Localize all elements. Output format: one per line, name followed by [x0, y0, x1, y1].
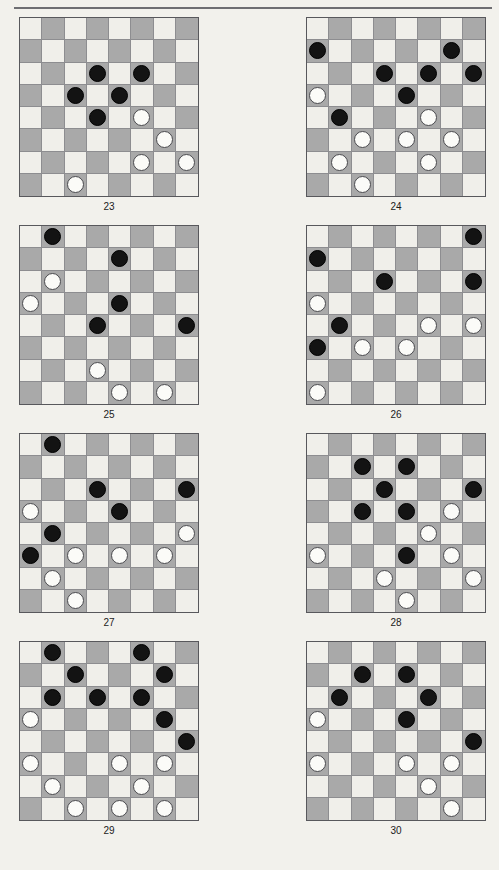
square-r6-c7[interactable]	[176, 776, 198, 798]
square-r2-c5[interactable]	[418, 479, 440, 501]
square-r6-c2[interactable]	[65, 568, 87, 590]
square-r7-c1[interactable]	[42, 798, 64, 820]
square-r3-c3[interactable]	[374, 501, 396, 523]
square-r4-c7[interactable]	[176, 107, 198, 129]
square-r7-c7[interactable]	[463, 382, 485, 404]
square-r2-c4[interactable]	[396, 687, 418, 709]
square-r3-c0[interactable]	[20, 501, 42, 523]
square-r0-c2[interactable]	[65, 18, 87, 40]
square-r1-c1[interactable]	[329, 40, 351, 62]
square-r2-c4[interactable]	[396, 479, 418, 501]
square-r3-c7[interactable]	[463, 293, 485, 315]
square-r5-c0[interactable]	[20, 545, 42, 567]
square-r5-c4[interactable]	[109, 337, 131, 359]
square-r3-c2[interactable]	[352, 709, 374, 731]
square-r3-c2[interactable]	[352, 293, 374, 315]
square-r0-c5[interactable]	[418, 642, 440, 664]
white-checker-piece[interactable]	[22, 711, 39, 728]
square-r6-c6[interactable]	[441, 568, 463, 590]
square-r2-c6[interactable]	[154, 479, 176, 501]
square-r4-c5[interactable]	[418, 523, 440, 545]
square-r4-c5[interactable]	[131, 107, 153, 129]
square-r3-c1[interactable]	[329, 85, 351, 107]
square-r6-c3[interactable]	[87, 776, 109, 798]
square-r4-c1[interactable]	[329, 731, 351, 753]
black-checker-piece[interactable]	[178, 481, 195, 498]
square-r5-c0[interactable]	[307, 753, 329, 775]
white-checker-piece[interactable]	[420, 525, 437, 542]
black-checker-piece[interactable]	[465, 481, 482, 498]
square-r0-c6[interactable]	[154, 18, 176, 40]
square-r6-c4[interactable]	[396, 152, 418, 174]
square-r4-c6[interactable]	[441, 523, 463, 545]
white-checker-piece[interactable]	[22, 755, 39, 772]
square-r7-c3[interactable]	[374, 798, 396, 820]
square-r7-c7[interactable]	[176, 590, 198, 612]
square-r0-c0[interactable]	[20, 434, 42, 456]
white-checker-piece[interactable]	[178, 154, 195, 171]
black-checker-piece[interactable]	[398, 458, 415, 475]
square-r6-c5[interactable]	[131, 776, 153, 798]
square-r5-c0[interactable]	[307, 129, 329, 151]
square-r6-c3[interactable]	[87, 152, 109, 174]
white-checker-piece[interactable]	[309, 87, 326, 104]
square-r2-c6[interactable]	[154, 687, 176, 709]
square-r6-c0[interactable]	[20, 152, 42, 174]
black-checker-piece[interactable]	[44, 436, 61, 453]
white-checker-piece[interactable]	[67, 547, 84, 564]
square-r6-c5[interactable]	[131, 360, 153, 382]
square-r3-c2[interactable]	[352, 85, 374, 107]
square-r6-c3[interactable]	[374, 568, 396, 590]
black-checker-piece[interactable]	[331, 317, 348, 334]
white-checker-piece[interactable]	[331, 154, 348, 171]
square-r2-c5[interactable]	[131, 63, 153, 85]
square-r3-c0[interactable]	[20, 85, 42, 107]
square-r6-c2[interactable]	[65, 152, 87, 174]
square-r0-c3[interactable]	[87, 642, 109, 664]
square-r2-c7[interactable]	[176, 687, 198, 709]
square-r4-c1[interactable]	[42, 315, 64, 337]
square-r0-c6[interactable]	[441, 434, 463, 456]
white-checker-piece[interactable]	[156, 131, 173, 148]
square-r1-c1[interactable]	[42, 248, 64, 270]
square-r6-c0[interactable]	[307, 360, 329, 382]
black-checker-piece[interactable]	[465, 273, 482, 290]
square-r7-c2[interactable]	[65, 798, 87, 820]
square-r5-c6[interactable]	[441, 129, 463, 151]
square-r0-c1[interactable]	[42, 18, 64, 40]
square-r2-c6[interactable]	[154, 271, 176, 293]
square-r7-c3[interactable]	[374, 174, 396, 196]
square-r5-c2[interactable]	[352, 337, 374, 359]
square-r7-c4[interactable]	[396, 174, 418, 196]
square-r1-c5[interactable]	[131, 248, 153, 270]
black-checker-piece[interactable]	[465, 733, 482, 750]
square-r7-c6[interactable]	[441, 382, 463, 404]
square-r2-c7[interactable]	[463, 63, 485, 85]
square-r0-c3[interactable]	[374, 642, 396, 664]
white-checker-piece[interactable]	[398, 339, 415, 356]
square-r5-c4[interactable]	[396, 545, 418, 567]
white-checker-piece[interactable]	[354, 131, 371, 148]
square-r1-c4[interactable]	[109, 40, 131, 62]
square-r0-c6[interactable]	[154, 434, 176, 456]
square-r5-c5[interactable]	[131, 129, 153, 151]
square-r6-c7[interactable]	[463, 568, 485, 590]
square-r5-c5[interactable]	[418, 129, 440, 151]
square-r2-c4[interactable]	[109, 63, 131, 85]
black-checker-piece[interactable]	[44, 689, 61, 706]
square-r2-c2[interactable]	[65, 63, 87, 85]
square-r3-c4[interactable]	[109, 85, 131, 107]
white-checker-piece[interactable]	[309, 755, 326, 772]
square-r6-c5[interactable]	[418, 360, 440, 382]
square-r0-c6[interactable]	[441, 642, 463, 664]
square-r0-c4[interactable]	[396, 226, 418, 248]
square-r7-c4[interactable]	[396, 798, 418, 820]
square-r1-c0[interactable]	[307, 664, 329, 686]
square-r5-c7[interactable]	[176, 545, 198, 567]
square-r5-c4[interactable]	[396, 753, 418, 775]
square-r6-c6[interactable]	[154, 152, 176, 174]
square-r2-c5[interactable]	[131, 479, 153, 501]
square-r2-c5[interactable]	[131, 271, 153, 293]
square-r5-c2[interactable]	[352, 129, 374, 151]
square-r1-c7[interactable]	[176, 40, 198, 62]
